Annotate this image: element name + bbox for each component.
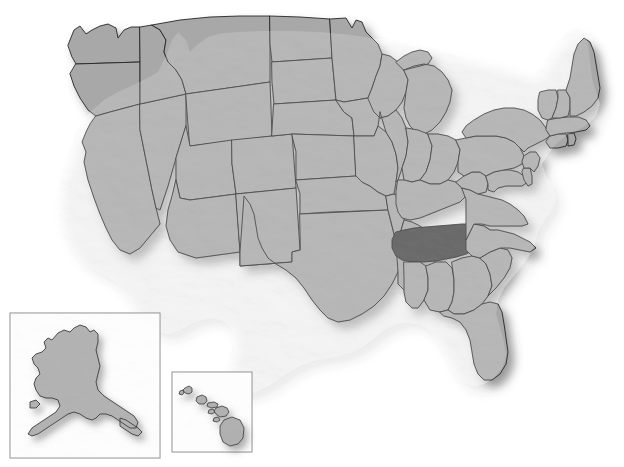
us-map-svg (0, 0, 624, 467)
hawaii-inset-group (172, 372, 252, 452)
alaska-inset-group (10, 313, 160, 458)
state-washington[interactable] (68, 24, 140, 64)
hawaii-relief-layer (172, 372, 252, 452)
alaska-relief-layer (10, 313, 160, 458)
us-map-container (0, 0, 624, 467)
